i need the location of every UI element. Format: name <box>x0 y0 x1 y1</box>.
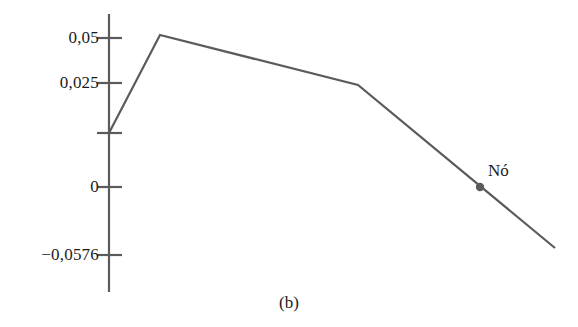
y-tick-label-0: 0 <box>90 177 99 197</box>
figure-container: 0,05 0,025 0 −0,0576 Nó (b) <box>0 0 578 327</box>
node-marker-dot <box>476 183 484 191</box>
node-label: Nó <box>488 161 509 181</box>
figure-caption: (b) <box>0 293 578 313</box>
mode-shape-line <box>109 35 555 248</box>
y-tick-label-0_025: 0,025 <box>60 73 99 93</box>
y-tick-label-0_05: 0,05 <box>68 28 99 48</box>
y-tick-label-neg-0_0576: −0,0576 <box>41 245 99 265</box>
